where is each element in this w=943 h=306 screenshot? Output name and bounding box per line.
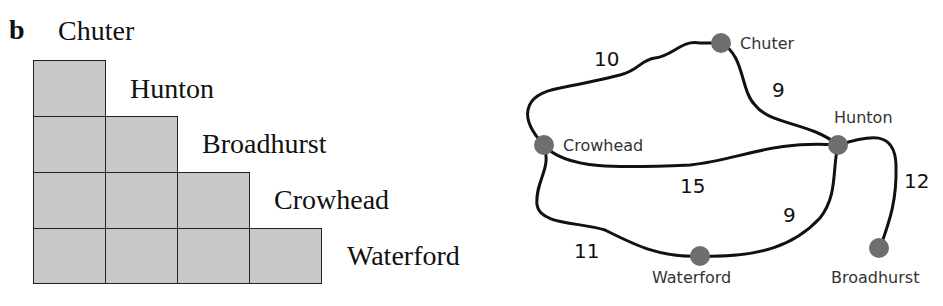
edge-label-hunton-broadhurst: 12 — [904, 169, 929, 193]
node-waterford — [690, 246, 710, 266]
node-broadhurst — [869, 238, 889, 258]
edge-label-crowhead-chuter: 10 — [594, 47, 619, 71]
road-network: Chuter Crowhead Hunton Waterford Broadhu… — [0, 0, 943, 306]
edge-label-crowhead-waterford: 11 — [574, 239, 599, 263]
node-label-hunton: Hunton — [834, 108, 893, 127]
edge-label-chuter-hunton: 9 — [772, 78, 785, 102]
node-label-crowhead: Crowhead — [563, 136, 643, 155]
node-label-broadhurst: Broadhurst — [831, 268, 919, 287]
node-chuter — [711, 33, 731, 53]
edge-crowhead-chuter — [528, 43, 721, 145]
edge-waterford-hunton — [700, 145, 838, 256]
edge-hunton-broadhurst — [838, 138, 896, 248]
node-label-chuter: Chuter — [740, 34, 795, 53]
edge-label-crowhead-hunton: 15 — [680, 174, 705, 198]
edge-label-waterford-hunton: 9 — [783, 203, 796, 227]
node-hunton — [828, 135, 848, 155]
node-label-waterford: Waterford — [652, 268, 731, 287]
edge-crowhead-waterford — [537, 145, 700, 256]
node-crowhead — [534, 135, 554, 155]
